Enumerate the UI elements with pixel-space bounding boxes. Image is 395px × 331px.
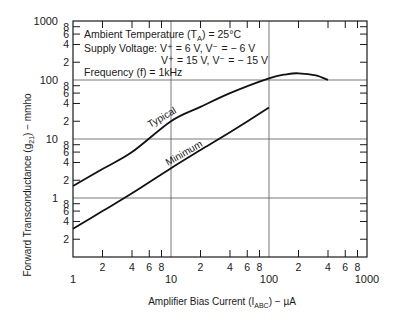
x-minor-tick-label: 6: [146, 261, 152, 273]
annotation-supply-voltage-1: Supply Voltage: V⁺ = 6 V, V⁻ = − 6 V: [84, 42, 255, 54]
x-major-tick-label: 100: [260, 273, 278, 285]
x-minor-tick-label: 8: [159, 261, 165, 273]
x-major-tick-label: 1: [70, 273, 76, 285]
y-minor-tick-label: 8: [63, 80, 69, 92]
y-minor-tick-label: 2: [63, 56, 69, 68]
annotation-supply-voltage-2: V⁺ = 15 V, V⁻ = − 15 V: [161, 54, 268, 66]
y-minor-tick-label: 4: [63, 38, 69, 50]
curve-label-minimum: Minimum: [164, 138, 205, 168]
curve-label-typical: Typical: [146, 105, 178, 130]
x-minor-tick-label: 6: [342, 261, 348, 273]
y-minor-tick-label: 4: [63, 156, 69, 168]
data-curves: [73, 73, 328, 229]
y-major-tick-label: 1: [52, 192, 58, 204]
y-major-tick-label: 1000: [34, 15, 58, 27]
y-minor-tick-label: 8: [63, 139, 69, 151]
y-minor-tick-label: 8: [63, 198, 69, 210]
y-minor-tick-label: 2: [63, 174, 69, 186]
y-major-tick-label: 10: [46, 133, 58, 145]
transconductance-chart: 2468246824681101001000246824682468246810…: [0, 0, 395, 331]
x-minor-tick-label: 4: [325, 261, 331, 273]
x-minor-tick-label: 8: [257, 261, 263, 273]
x-minor-tick-label: 6: [244, 261, 250, 273]
x-minor-tick-label: 4: [227, 261, 233, 273]
annotation-ambient-temp: Ambient Temperature (TA) = 25°C: [84, 28, 241, 43]
x-major-tick-label: 1000: [355, 273, 379, 285]
y-axis-title: Forward Transconductance (g21) − mmho: [22, 93, 35, 277]
x-axis-title: Amplifier Bias Current (IABC) − µA: [148, 296, 296, 309]
x-minor-tick-label: 4: [129, 261, 135, 273]
x-major-tick-label: 10: [165, 273, 177, 285]
y-major-tick-label: 100: [40, 74, 58, 86]
y-minor-tick-label: 4: [63, 97, 69, 109]
x-minor-tick-label: 8: [355, 261, 361, 273]
y-minor-tick-label: 2: [63, 115, 69, 127]
y-minor-tick-label: 8: [63, 21, 69, 33]
y-minor-tick-label: 2: [63, 233, 69, 245]
x-minor-tick-label: 2: [296, 261, 302, 273]
curve-typical: [73, 73, 328, 186]
annotation-frequency: Frequency (f) = 1kHz: [84, 66, 182, 78]
y-minor-tick-label: 4: [63, 215, 69, 227]
x-minor-tick-label: 2: [198, 261, 204, 273]
x-minor-tick-label: 2: [100, 261, 106, 273]
